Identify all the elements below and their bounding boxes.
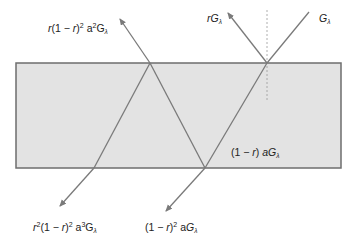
label-internal-transmitted: (1 − r) aGλ: [231, 147, 279, 158]
label-reflected-rG: rGλ: [207, 13, 222, 24]
ray-transmitted-2-arrow: [60, 168, 94, 206]
label-text: a: [177, 221, 186, 233]
label-text: G: [211, 12, 219, 24]
ray-emerging-top-arrow: [120, 19, 150, 63]
label-incident-G: Gλ: [319, 13, 330, 24]
ray-transmitted-1-arrow: [166, 168, 205, 211]
label-text: (1 −: [52, 22, 73, 34]
label-text: (1 −: [40, 221, 61, 233]
ray-incident: [267, 12, 309, 63]
diagram-canvas: [0, 0, 357, 243]
label-sub: λ: [276, 152, 279, 159]
ray-reflected-1-arrow: [228, 13, 267, 63]
absorbing-slab: [16, 63, 341, 168]
label-second-transmission: r2(1 − r)2 a3Gλ: [33, 222, 97, 233]
label-first-transmission: (1 − r)2 aGλ: [145, 222, 197, 233]
label-sub: λ: [219, 18, 222, 25]
label-text: (1 −: [231, 146, 252, 158]
label-sub: λ: [327, 18, 330, 25]
label-text: (1 −: [145, 221, 166, 233]
label-text: G: [186, 221, 194, 233]
label-sub: λ: [93, 227, 96, 234]
label-sub: λ: [194, 227, 197, 234]
label-text: G: [96, 22, 104, 34]
label-second-reflection: r(1 − r)2 a2Gλ: [48, 23, 108, 34]
label-text: G: [319, 12, 327, 24]
label-sub: λ: [105, 28, 108, 35]
